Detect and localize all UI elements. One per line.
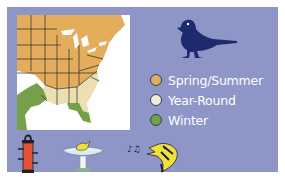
spring-summer-swatch-icon [150, 74, 162, 86]
legend-item-spring-summer: Spring/Summer [150, 70, 263, 90]
legend: Spring/Summer Year-Round Winter [150, 70, 263, 130]
legend-label: Spring/Summer [168, 73, 263, 88]
year-round-swatch-icon [150, 94, 162, 106]
range-map-graphic [17, 15, 130, 130]
bird-silhouette-icon [175, 17, 239, 61]
legend-label: Year-Round [168, 93, 236, 108]
legend-label: Winter [168, 113, 208, 128]
range-info-panel: Spring/Summer Year-Round Winter ♪♫ [7, 7, 278, 172]
birdbath-icon [62, 140, 104, 172]
music-notes-icon: ♪♫ [127, 144, 141, 154]
range-map [17, 15, 130, 130]
tube-feeder-icon [17, 133, 39, 173]
winter-swatch-icon [150, 114, 162, 126]
singing-bird-icon: ♪♫ [125, 138, 187, 174]
legend-item-winter: Winter [150, 110, 263, 130]
legend-item-year-round: Year-Round [150, 90, 263, 110]
